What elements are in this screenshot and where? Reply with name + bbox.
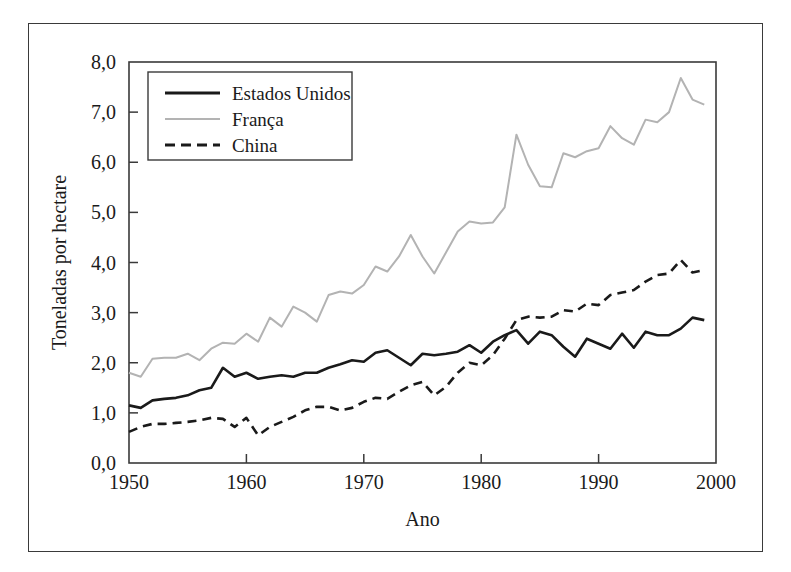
legend-label-1: Estados Unidos — [232, 83, 351, 104]
figure-container: 0,01,02,03,04,05,06,07,08,01950196019701… — [0, 0, 791, 572]
y-axis-title: Toneladas por hectare — [48, 175, 71, 350]
x-tick-label: 2000 — [696, 471, 736, 493]
legend-label-2: França — [232, 109, 284, 130]
x-tick-label: 1990 — [579, 471, 619, 493]
y-tick-label: 8,0 — [91, 51, 116, 73]
y-tick-label: 2,0 — [91, 352, 116, 374]
y-tick-label: 4,0 — [91, 252, 116, 274]
series-line-estados-unidos — [129, 318, 704, 408]
y-tick-label: 3,0 — [91, 302, 116, 324]
x-tick-label: 1980 — [461, 471, 501, 493]
x-axis-title: Ano — [405, 508, 439, 530]
y-tick-label: 6,0 — [91, 151, 116, 173]
x-tick-label: 1970 — [344, 471, 384, 493]
y-tick-label: 5,0 — [91, 201, 116, 223]
line-chart: 0,01,02,03,04,05,06,07,08,01950196019701… — [0, 0, 791, 572]
y-tick-label: 1,0 — [91, 402, 116, 424]
x-tick-label: 1950 — [109, 471, 149, 493]
y-tick-label: 7,0 — [91, 101, 116, 123]
legend-label-3: China — [232, 135, 278, 156]
x-tick-label: 1960 — [226, 471, 266, 493]
